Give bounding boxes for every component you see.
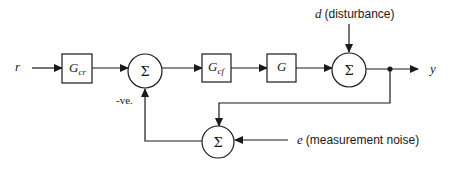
output-signal-label: y [428,61,436,76]
sigma-icon: Σ [344,63,353,78]
svg-text:G: G [277,59,287,74]
block-gcf: Gcf [202,54,231,82]
summing-junction-2: Σ [332,53,366,87]
summing-junction-3: Σ [202,126,234,158]
sigma-icon: Σ [213,135,222,150]
disturbance-label: d(disturbance) [315,6,395,21]
reference-signal-label: r [15,59,21,74]
sigma-icon: Σ [140,64,149,79]
noise-label: e(measurement noise) [297,132,419,147]
measured-output-return-path [145,89,202,141]
block-gcr: Gcr [62,54,92,83]
block-g: G [267,54,296,82]
summing-junction-1: Σ [128,54,162,88]
control-block-diagram: r Gcr Σ -ve. Gcf G d(disturbance) Σ y Σ [0,0,453,169]
negative-feedback-label: -ve. [116,94,133,106]
